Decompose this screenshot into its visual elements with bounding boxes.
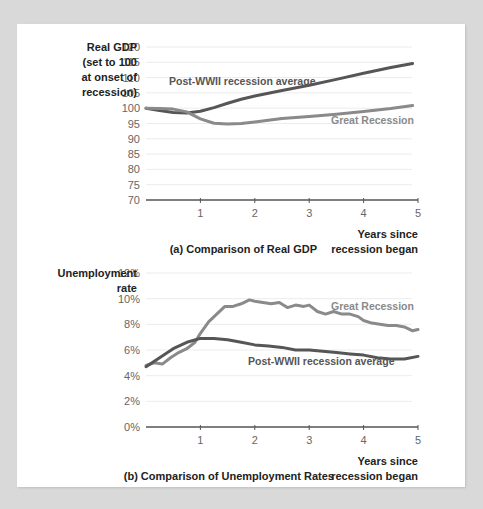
x-tick-label: 4: [361, 434, 367, 446]
chart-title: (a) Comparison of Real GDP: [170, 243, 317, 255]
y-tick-label: 85: [128, 148, 140, 160]
y-tick-label: 75: [128, 179, 140, 191]
y-tick-label: 70: [128, 194, 140, 206]
series-label: Post-WWII recession average: [169, 75, 316, 87]
y-tick-label: 80: [128, 163, 140, 175]
series-label: Post-WWII recession average: [248, 355, 395, 367]
x-axis-label: Years since: [357, 228, 418, 240]
y-tick-label: 2%: [124, 395, 140, 407]
x-axis-label: recession began: [331, 243, 418, 255]
x-tick-label: 5: [415, 434, 421, 446]
x-tick-label: 4: [361, 207, 367, 219]
y-tick-label: 10%: [118, 293, 140, 305]
y-axis-label: Unemployment: [58, 267, 138, 279]
series-line: [146, 64, 413, 114]
y-tick-label: 100: [122, 102, 140, 114]
x-axis-label: recession began: [331, 470, 418, 482]
y-tick-label: 4%: [124, 370, 140, 382]
x-tick-label: 3: [306, 207, 312, 219]
x-axis-label: Years since: [357, 455, 418, 467]
x-tick-label: 2: [252, 434, 258, 446]
y-axis-label: rate: [117, 282, 137, 294]
y-axis-label: Real GDP: [87, 41, 137, 53]
series-label: Great Recession: [331, 114, 414, 126]
y-tick-label: 8%: [124, 318, 140, 330]
x-tick-label: 1: [197, 434, 203, 446]
x-tick-label: 3: [306, 434, 312, 446]
y-tick-label: 95: [128, 118, 140, 130]
x-tick-label: 1: [197, 207, 203, 219]
chart-unemployment: 12%10%8%6%4%2%0%12345UnemploymentrateYea…: [58, 267, 422, 482]
y-axis-label: recession): [82, 86, 137, 98]
y-axis-label: at onset of: [81, 71, 137, 83]
y-tick-label: 6%: [124, 344, 140, 356]
figure: 12011511010510095908580757012345Real GDP…: [0, 0, 483, 509]
y-tick-label: 0%: [124, 421, 140, 433]
x-tick-label: 2: [252, 207, 258, 219]
chart-real-gdp: 12011511010510095908580757012345Real GDP…: [81, 41, 421, 255]
chart-title: (b) Comparison of Unemployment Rates: [124, 470, 334, 482]
y-tick-label: 90: [128, 133, 140, 145]
x-tick-label: 5: [415, 207, 421, 219]
y-axis-label: (set to 100: [83, 56, 137, 68]
series-label: Great Recession: [331, 300, 414, 312]
